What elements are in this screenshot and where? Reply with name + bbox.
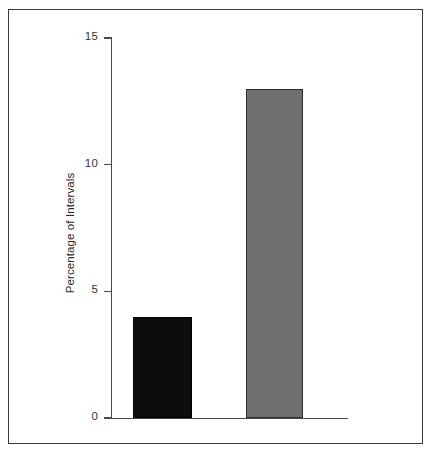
bar-1 <box>246 89 303 418</box>
bar-0 <box>133 317 192 418</box>
plot-area <box>112 38 348 418</box>
chart-figure: 051015 Percentage of Intervals <box>0 0 432 453</box>
y-tick-label: 0 <box>62 410 98 422</box>
y-axis-title: Percentage of Intervals <box>64 173 76 294</box>
y-tick-label: 10 <box>62 157 98 169</box>
y-tick-mark <box>104 291 112 292</box>
y-tick-mark <box>104 417 112 418</box>
y-tick-label: 15 <box>62 30 98 42</box>
y-tick-mark <box>104 164 112 165</box>
y-tick-mark <box>104 37 112 38</box>
